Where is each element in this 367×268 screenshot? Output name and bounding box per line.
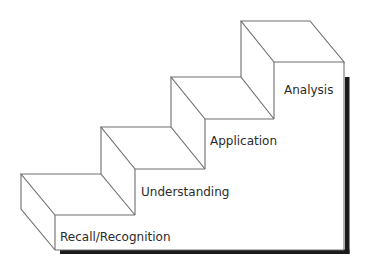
- label-analysis: Analysis: [284, 83, 333, 97]
- label-application: Application: [210, 134, 277, 148]
- label-understanding: Understanding: [141, 185, 229, 199]
- staircase-diagram: Analysis Application Understanding Recal…: [0, 0, 367, 268]
- staircase-body: [21, 21, 344, 250]
- label-recall-recognition: Recall/Recognition: [60, 230, 171, 244]
